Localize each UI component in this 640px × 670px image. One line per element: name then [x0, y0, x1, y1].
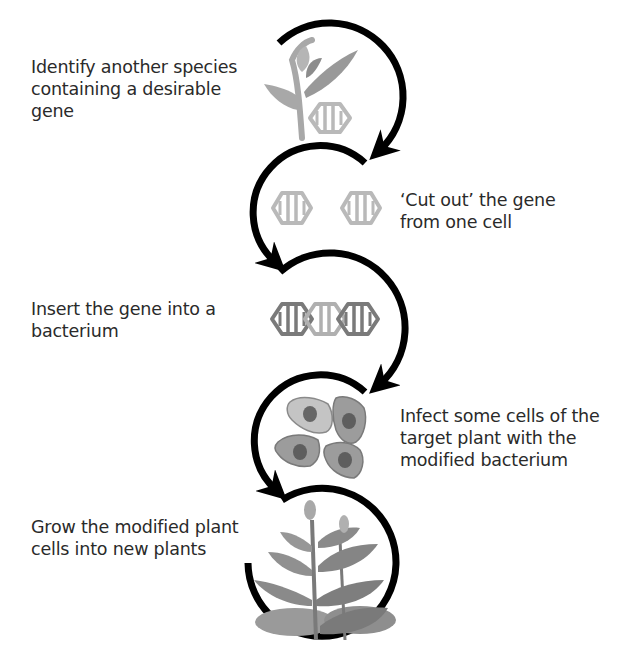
step-4-text: Infect some cells of the target plant wi…: [400, 405, 600, 471]
step-2-text: ‘Cut out’ the gene from one cell: [400, 189, 556, 233]
step-3-text: Insert the gene into a bacterium: [31, 298, 216, 342]
recombinant-dna-icon: [272, 304, 378, 334]
plant-cells-icon: [275, 397, 366, 478]
plant-with-gene-icon: [264, 40, 358, 138]
step-5-text: Grow the modified plant cells into new p…: [31, 516, 238, 560]
grown-plant-icon: [254, 500, 396, 640]
cut-gene-icon: [273, 193, 380, 223]
step-1-text: Identify another species containing a de…: [31, 56, 237, 122]
